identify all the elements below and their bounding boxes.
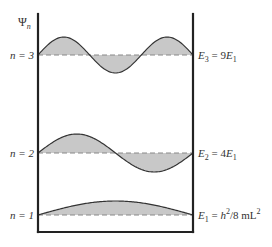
level-1-text: n = 1 — [10, 209, 34, 221]
energy-label-e1: E1 = h2/8 mL2 — [198, 210, 261, 221]
level-label-n1: n = 1 — [0, 210, 34, 221]
psi-subscript: n — [27, 22, 31, 31]
e1-symbol: E — [198, 209, 205, 221]
e1-eq: = — [209, 209, 221, 221]
psi-symbol: Ψ — [18, 15, 27, 29]
e2-e1-sub: 1 — [233, 153, 237, 162]
psi-axis-label: Ψn — [18, 16, 31, 28]
e3-e1-symbol: E — [226, 49, 233, 61]
e3-e1-sub: 1 — [233, 55, 237, 64]
level-label-n3: n = 3 — [0, 50, 34, 61]
e2-eq: = 4 — [209, 147, 226, 159]
level-3-text: n = 3 — [10, 49, 34, 61]
wavefunctions — [38, 37, 193, 215]
energy-label-e2: E2 = 4E1 — [198, 148, 237, 159]
energy-label-e3: E3 = 9E1 — [198, 50, 237, 61]
l-exponent: 2 — [257, 207, 261, 216]
e2-symbol: E — [198, 147, 205, 159]
level-2-text: n = 2 — [10, 147, 34, 159]
e2-e1-symbol: E — [226, 147, 233, 159]
e3-eq: = 9 — [209, 49, 226, 61]
level-label-n2: n = 2 — [0, 148, 34, 159]
e1-denominator: /8 mL — [230, 209, 257, 221]
e3-symbol: E — [198, 49, 205, 61]
wave-fill-n1 — [38, 201, 193, 215]
